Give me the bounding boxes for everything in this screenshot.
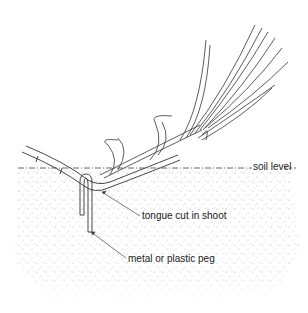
label-soil-level: soil level (253, 162, 291, 172)
diagram-drawing (0, 0, 308, 313)
label-tongue-cut: tongue cut in shoot (142, 211, 227, 221)
layering-diagram: soil level tongue cut in shoot metal or … (0, 0, 308, 313)
label-peg: metal or plastic peg (128, 254, 215, 264)
soil (15, 168, 300, 305)
shoot-leaves (100, 25, 288, 178)
